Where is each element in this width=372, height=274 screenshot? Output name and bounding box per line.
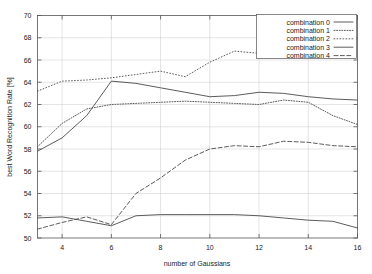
y-tick-label: 64: [24, 79, 32, 86]
y-gridlines: [38, 38, 358, 216]
x-ticklabels: 46810121416: [60, 244, 361, 251]
y-tick-label: 56: [24, 168, 32, 175]
y-axis-label: best Word Recognition Rate [%]: [6, 77, 14, 177]
legend-label-2: combination 2: [286, 35, 330, 42]
y-tick-label: 58: [24, 146, 32, 153]
legend-label-3: combination 3: [286, 44, 330, 51]
x-tick-label: 10: [206, 244, 214, 251]
x-tick-label: 12: [255, 244, 263, 251]
y-tick-label: 62: [24, 101, 32, 108]
y-ticklabels: 5052545658606264666870: [24, 12, 32, 242]
legend-label-0: combination 0: [286, 19, 330, 26]
legend: combination 0combination 1combination 2c…: [257, 15, 357, 60]
y-tick-label: 60: [24, 123, 32, 130]
legend-label-1: combination 1: [286, 27, 330, 34]
series-line-3: [38, 215, 358, 228]
legend-label-4: combination 4: [286, 52, 330, 59]
chart-figure: 5052545658606264666870 46810121416 best …: [0, 0, 372, 274]
y-tick-label: 68: [24, 34, 32, 41]
y-tick-label: 70: [24, 12, 32, 19]
x-tick-label: 4: [60, 244, 64, 251]
series-line-0: [38, 81, 358, 151]
x-tick-label: 16: [354, 244, 362, 251]
x-axis-label: number of Gaussians: [164, 260, 231, 267]
y-tick-label: 54: [24, 190, 32, 197]
y-tick-label: 66: [24, 57, 32, 64]
x-tick-label: 14: [304, 244, 312, 251]
y-tick-label: 52: [24, 212, 32, 219]
x-tick-label: 8: [159, 244, 163, 251]
data-series-group: [38, 51, 358, 229]
line-chart: 5052545658606264666870 46810121416 best …: [0, 0, 372, 274]
y-tick-label: 50: [24, 235, 32, 242]
x-tick-label: 6: [109, 244, 113, 251]
series-line-1: [38, 100, 358, 147]
